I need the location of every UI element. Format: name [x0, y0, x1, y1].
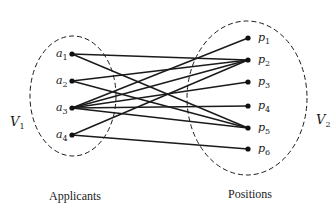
- node-p4: [245, 103, 250, 108]
- node-p2: [245, 57, 250, 62]
- node-label-p3: p3: [258, 75, 270, 90]
- edge-a3-p5: [72, 108, 248, 128]
- node-a3: [69, 105, 74, 110]
- edge-a3-p4: [72, 106, 248, 108]
- node-p1: [245, 35, 250, 40]
- node-label-p5: p5: [258, 121, 270, 136]
- node-label-p2: p2: [258, 53, 270, 68]
- node-label-a2: a2: [56, 74, 68, 89]
- applicant-nodes: a1a2a3a4: [56, 47, 75, 143]
- positions-caption: Positions: [228, 187, 272, 201]
- applicants-caption: Applicants: [49, 189, 101, 203]
- node-label-a1: a1: [56, 47, 68, 62]
- edge-a3-p2: [72, 60, 248, 108]
- node-p6: [245, 146, 250, 151]
- node-p3: [245, 79, 250, 84]
- edge-a1-p5: [72, 54, 248, 128]
- node-a2: [69, 78, 74, 83]
- bipartite-graph: a1a2a3a4 p1p2p3p4p5p6 V1 V2 Applicants P…: [0, 0, 335, 212]
- node-a1: [69, 51, 74, 56]
- node-p5: [245, 125, 250, 130]
- right-set-label: V2: [316, 112, 330, 129]
- node-label-p4: p4: [258, 99, 270, 114]
- edge-a1-p2: [72, 54, 248, 60]
- node-label-p1: p1: [258, 31, 270, 46]
- node-label-a3: a3: [56, 101, 68, 116]
- node-label-a4: a4: [56, 128, 68, 143]
- position-nodes: p1p2p3p4p5p6: [245, 31, 270, 157]
- node-label-p6: p6: [258, 142, 270, 157]
- edge-a4-p6: [72, 135, 248, 149]
- left-set-label: V1: [10, 114, 24, 131]
- edges: [72, 38, 248, 149]
- node-a4: [69, 132, 74, 137]
- positions-set-boundary: [187, 21, 307, 175]
